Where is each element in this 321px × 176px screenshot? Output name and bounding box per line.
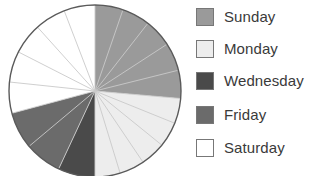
pie-chart-svg [0, 0, 190, 176]
legend-label-friday: Friday [224, 106, 266, 124]
legend-label-monday: Monday [224, 40, 278, 58]
legend-label-saturday: Saturday [224, 139, 285, 157]
pie-slice-sunday[interactable] [95, 5, 181, 99]
legend-label-wednesday: Wednesday [224, 72, 304, 90]
legend-item-friday[interactable]: Friday [196, 104, 266, 126]
pie-chart-figure: Sunday Monday Wednesday Friday Saturday [0, 0, 321, 176]
legend-swatch-friday [196, 106, 214, 124]
legend-item-wednesday[interactable]: Wednesday [196, 70, 304, 92]
legend-swatch-monday [196, 40, 214, 58]
pie-chart-plot-area [0, 0, 190, 176]
legend-swatch-saturday [196, 139, 214, 157]
legend-swatch-sunday [196, 8, 214, 26]
legend-item-monday[interactable]: Monday [196, 38, 278, 60]
legend-item-sunday[interactable]: Sunday [196, 6, 275, 28]
legend-label-sunday: Sunday [224, 8, 275, 26]
chart-legend: Sunday Monday Wednesday Friday Saturday [196, 0, 321, 176]
legend-item-saturday[interactable]: Saturday [196, 137, 285, 159]
legend-swatch-wednesday [196, 72, 214, 90]
